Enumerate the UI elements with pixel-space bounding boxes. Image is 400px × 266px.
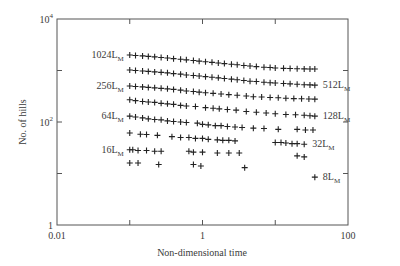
plus-marker	[152, 116, 158, 122]
plus-marker	[156, 161, 162, 167]
plus-marker	[301, 141, 307, 147]
plus-marker	[186, 135, 192, 141]
plus-marker	[281, 80, 287, 86]
x-tick-label: 1	[200, 230, 205, 241]
plus-marker	[196, 58, 202, 64]
plus-marker	[294, 141, 300, 147]
plus-marker	[158, 117, 164, 123]
series-512L_M	[127, 67, 318, 88]
plus-marker	[178, 102, 184, 108]
plus-marker	[127, 97, 133, 103]
plus-marker	[301, 112, 307, 118]
plus-marker	[259, 94, 265, 100]
plus-marker	[190, 161, 196, 167]
plus-marker	[190, 149, 196, 155]
plus-marker	[287, 66, 293, 72]
plus-marker	[127, 160, 133, 166]
plus-marker	[253, 64, 259, 70]
plus-marker	[234, 92, 240, 98]
plus-marker	[152, 69, 158, 75]
plus-marker	[203, 105, 209, 111]
plus-marker	[133, 98, 139, 104]
plus-marker	[183, 103, 189, 109]
plus-marker	[250, 94, 256, 100]
plus-marker	[293, 112, 299, 118]
plus-marker	[272, 111, 278, 117]
plus-marker	[272, 65, 278, 71]
series-label: 1024LM	[91, 49, 124, 63]
plus-marker	[220, 137, 226, 143]
plus-marker	[133, 83, 139, 89]
plus-marker	[306, 96, 312, 102]
plus-marker	[294, 153, 300, 159]
plus-marker	[241, 63, 247, 69]
plus-marker	[226, 137, 232, 143]
plus-marker	[158, 69, 164, 75]
plus-marker	[287, 81, 293, 87]
plus-marker	[289, 141, 295, 147]
plus-marker	[224, 123, 230, 129]
plus-marker	[312, 96, 318, 102]
plus-marker	[205, 136, 211, 142]
plus-marker	[241, 77, 247, 83]
plus-marker	[127, 83, 133, 89]
plus-marker	[299, 96, 305, 102]
plus-marker	[233, 107, 239, 113]
plus-marker	[186, 148, 192, 154]
series-label: 256LM	[96, 80, 124, 94]
plus-marker	[310, 127, 316, 133]
plus-marker	[236, 150, 242, 156]
series-label: 128LM	[323, 110, 351, 124]
y-tick-label: 102	[40, 115, 54, 128]
plus-marker	[215, 60, 221, 66]
plus-marker	[218, 91, 224, 97]
plus-marker	[164, 70, 170, 76]
plus-marker	[140, 115, 146, 121]
plus-marker	[127, 67, 133, 73]
plus-marker	[183, 57, 189, 63]
series-label: 8LM	[323, 171, 341, 185]
plus-marker	[301, 82, 307, 88]
series-8L_M	[127, 160, 318, 180]
plus-marker	[203, 90, 209, 96]
plus-marker	[152, 148, 158, 154]
plus-marker	[152, 99, 158, 105]
plus-marker	[158, 85, 164, 91]
plus-marker	[294, 81, 300, 87]
plus-marker	[135, 147, 141, 153]
plus-marker	[253, 79, 259, 85]
plus-marker	[145, 84, 151, 90]
plus-marker	[278, 139, 284, 145]
plus-marker	[226, 92, 232, 98]
plus-marker	[164, 55, 170, 61]
plus-marker	[283, 95, 289, 101]
data-points	[127, 52, 318, 180]
series-1024L_M	[127, 52, 318, 72]
plus-marker	[247, 78, 253, 84]
plus-marker	[253, 109, 259, 115]
plus-marker	[267, 65, 273, 71]
plus-marker	[218, 123, 224, 129]
y-tick-label: 1	[48, 220, 53, 231]
chart-figure: 0.011100 1102104 1024LM512LM256LM128LM64…	[0, 0, 400, 266]
plus-marker	[152, 54, 158, 60]
plus-marker	[154, 132, 160, 138]
plus-marker	[212, 123, 218, 129]
y-axis-title: No. of hills	[17, 99, 28, 144]
x-tick-label: 0.01	[48, 230, 66, 241]
plus-marker	[158, 148, 164, 154]
plus-marker	[243, 108, 249, 114]
plus-marker	[234, 77, 240, 83]
plus-marker	[137, 131, 143, 137]
plus-marker	[228, 76, 234, 82]
plus-marker	[272, 80, 278, 86]
plus-marker	[135, 160, 141, 166]
plus-marker	[183, 119, 189, 125]
series-16L_M	[127, 147, 307, 160]
plus-marker	[190, 58, 196, 64]
plus-marker	[221, 61, 227, 67]
plus-marker	[164, 118, 170, 124]
plus-marker	[192, 135, 198, 141]
plus-marker	[144, 147, 150, 153]
plus-marker	[171, 86, 177, 92]
